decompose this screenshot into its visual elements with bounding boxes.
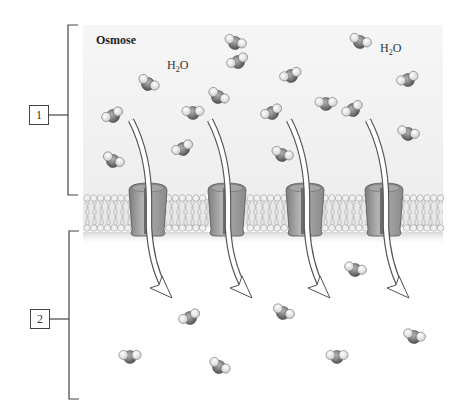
water-molecule [170, 138, 196, 159]
bracket-1 [48, 25, 78, 195]
water-molecule [315, 97, 337, 110]
bracket-2 [50, 231, 79, 399]
water-molecule [182, 106, 204, 119]
water-molecule [225, 51, 251, 72]
water-molecule [206, 356, 232, 378]
label-box-1: 1 [29, 105, 49, 125]
diagram-title: Osmose [96, 33, 136, 48]
water-molecule [402, 328, 427, 346]
water-molecule [270, 302, 296, 323]
water-molecule [100, 105, 126, 126]
water-molecule [269, 145, 294, 165]
water-molecule [222, 33, 247, 53]
water-molecule [278, 66, 303, 86]
water-molecule [135, 73, 161, 95]
water-molecule [259, 102, 285, 123]
osmosis-diagram: Osmose H2O H2O 1 2 [0, 0, 465, 416]
water-molecule [205, 86, 231, 108]
water-molecule [347, 32, 372, 52]
h2o-label-right: H2O [380, 41, 401, 57]
h2o-label-left: H2O [167, 58, 188, 74]
water-molecule [395, 70, 420, 90]
water-molecule [326, 350, 348, 363]
water-molecule [396, 125, 421, 143]
diagram-graphics [0, 0, 465, 416]
water-molecule [119, 350, 141, 363]
label-box-2: 2 [30, 309, 50, 329]
water-molecule [100, 150, 126, 171]
water-molecule [340, 99, 366, 121]
water-molecule [177, 307, 203, 328]
water-molecule [343, 261, 368, 279]
